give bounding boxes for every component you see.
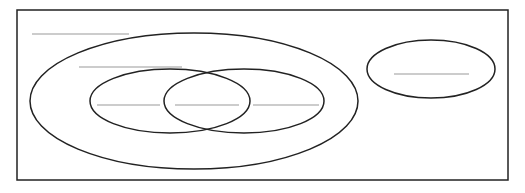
outer-set xyxy=(30,33,358,169)
venn-diagram xyxy=(0,0,525,193)
inner-left-set xyxy=(90,69,250,133)
inner-right-set xyxy=(164,69,324,133)
separate-set xyxy=(367,40,495,98)
